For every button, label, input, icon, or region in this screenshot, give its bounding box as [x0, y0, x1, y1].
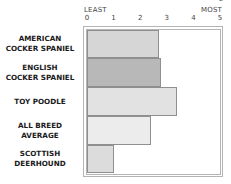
bar-toy-poodle [87, 87, 177, 116]
category-label: AMERICANCOCKER SPANIEL [0, 34, 80, 54]
bar-american-cocker-spaniel [87, 30, 159, 58]
axis-least-label: LEAST [84, 6, 107, 14]
x-tick-5: 5 [218, 14, 222, 22]
axis-most-label: MOST [201, 6, 222, 14]
x-tick-2: 2 [138, 14, 142, 22]
category-label: TOY POODLE [0, 97, 80, 107]
category-label: ALL BREEDAVERAGE [0, 121, 80, 141]
bar-all-breed-average [87, 116, 151, 145]
x-tick-4: 4 [191, 14, 195, 22]
cropped-fragment: ƶ [219, 0, 223, 3]
x-tick-0: 0 [85, 14, 89, 22]
bar-english-cocker-spaniel [87, 58, 161, 87]
x-tick-3: 3 [165, 14, 169, 22]
category-label: ENGLISHCOCKER SPANIEL [0, 63, 80, 83]
x-tick-1: 1 [111, 14, 115, 22]
category-label: SCOTTISHDEERHOUND [0, 149, 80, 169]
bar-scottish-deerhound [87, 145, 114, 173]
